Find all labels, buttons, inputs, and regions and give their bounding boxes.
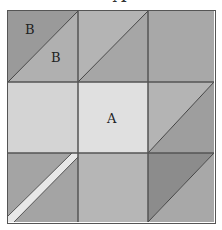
cell-r0-c1: [78, 11, 148, 82]
cell-r2-c1: [78, 153, 148, 222]
cell-r2-c2: [148, 153, 214, 222]
cell-r2-c0: [8, 153, 78, 222]
diagram-title-clipped: A: [113, 0, 126, 6]
cell-r1-c2: [148, 82, 214, 153]
patch-label-a: A: [107, 111, 116, 126]
patch-label-b-upper: B: [25, 22, 35, 37]
cell-r0-c0: [8, 11, 78, 82]
patch-label-b-lower: B: [51, 50, 61, 65]
quilt-block-grid: B B A: [7, 10, 216, 224]
cell-r0-c2: [148, 11, 214, 82]
cell-r1-c0: [8, 82, 78, 153]
